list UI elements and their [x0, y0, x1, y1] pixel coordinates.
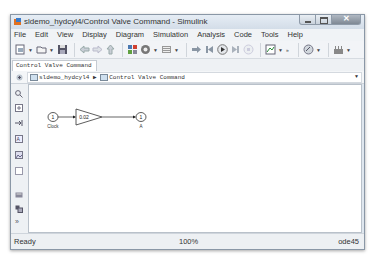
window-controls: ✕	[299, 15, 361, 25]
a-outport-block[interactable]: 1	[136, 113, 146, 122]
model-browser-icon[interactable]	[15, 191, 23, 199]
breadcrumb: sldemo_hydcyl4 ▶ Control Valve Command ▼	[27, 72, 362, 83]
library-browser-icon[interactable]	[127, 44, 138, 55]
model-config-icon[interactable]	[140, 44, 151, 55]
menu-simulation[interactable]: Simulation	[153, 29, 188, 41]
run-icon[interactable]	[217, 44, 228, 55]
menu-code[interactable]: Code	[234, 29, 252, 41]
model-advisor-dropdown[interactable]: ▼	[316, 47, 320, 53]
zoom-level: 100%	[179, 237, 198, 246]
diagram-canvas[interactable]: 1 Clock 0.02 1 A	[28, 84, 362, 233]
model-config-dropdown[interactable]: ▼	[153, 47, 157, 53]
image-icon[interactable]	[15, 151, 23, 159]
svg-text:0.02: 0.02	[79, 114, 89, 120]
maximize-button[interactable]	[316, 15, 332, 25]
clock-inport-block[interactable]: 1	[48, 113, 58, 122]
toolbar-separator	[260, 43, 261, 57]
menu-display[interactable]: Display	[82, 29, 107, 41]
title-bar[interactable]: sldemo_hydcyl4/Control Valve Command - S…	[11, 15, 364, 29]
tool-palette: A »	[11, 84, 28, 233]
breadcrumb-separator-icon: ▶	[93, 74, 97, 81]
menu-bar: File Edit View Display Diagram Simulatio…	[11, 29, 364, 41]
model-advisor-icon[interactable]	[303, 44, 314, 55]
forward-icon[interactable]	[92, 44, 103, 55]
menu-help[interactable]: Help	[288, 29, 303, 41]
breadcrumb-row: sldemo_hydcyl4 ▶ Control Valve Command ▼	[11, 71, 364, 84]
svg-text:1: 1	[140, 114, 143, 120]
tab-bar: Control Valve Command	[11, 59, 364, 71]
new-model-icon[interactable]	[15, 44, 26, 55]
gain-block[interactable]: 0.02	[76, 109, 102, 125]
clock-label: Clock	[47, 124, 59, 129]
toolbar-separator	[74, 43, 75, 57]
breadcrumb-dropdown-icon[interactable]: ▼	[355, 73, 358, 82]
breadcrumb-current[interactable]: Control Valve Command	[109, 74, 185, 81]
svg-text:1: 1	[52, 114, 55, 120]
menu-view[interactable]: View	[57, 29, 73, 41]
toolbar: ▼ ▼ ▼ ▼ ▼ » ▼ ▼	[11, 41, 364, 59]
arrowhead-icon	[73, 116, 76, 119]
breadcrumb-root[interactable]: sldemo_hydcyl4	[39, 74, 89, 81]
area-icon[interactable]	[15, 167, 23, 175]
fit-view-icon[interactable]	[15, 104, 23, 112]
back-icon[interactable]	[79, 44, 90, 55]
a-label: A	[139, 124, 142, 129]
open-icon[interactable]	[36, 44, 47, 55]
scope-icon[interactable]	[265, 44, 276, 55]
toolbar-separator	[298, 43, 299, 57]
block-properties-icon[interactable]	[15, 205, 23, 213]
model-explorer-icon[interactable]	[161, 44, 172, 55]
menu-file[interactable]: File	[14, 29, 26, 41]
toolbar-separator	[122, 43, 123, 57]
status-text: Ready	[14, 237, 36, 246]
menu-tools[interactable]: Tools	[261, 29, 279, 41]
step-back-icon[interactable]	[204, 44, 215, 55]
arrowhead-icon	[133, 116, 136, 119]
scope-dropdown[interactable]: ▼	[278, 47, 282, 53]
tab-control-valve-command[interactable]: Control Valve Command	[12, 60, 97, 71]
step-forward-icon[interactable]	[230, 44, 241, 55]
save-icon[interactable]	[57, 44, 68, 55]
signal-arrow-icon[interactable]	[15, 119, 23, 127]
build-dropdown[interactable]: ▼	[346, 47, 350, 53]
model-explorer-dropdown[interactable]: ▼	[174, 47, 178, 53]
menu-analysis[interactable]: Analysis	[197, 29, 225, 41]
open-dropdown[interactable]: ▼	[49, 47, 53, 53]
toolbar-separator	[186, 43, 187, 57]
zoom-icon[interactable]	[15, 90, 23, 98]
new-model-dropdown[interactable]: ▼	[28, 47, 32, 53]
minimize-button[interactable]	[299, 15, 316, 25]
up-icon[interactable]	[105, 44, 116, 55]
status-bar: Ready 100% ode45	[11, 233, 364, 249]
menu-edit[interactable]: Edit	[35, 29, 48, 41]
window-title: sldemo_hydcyl4/Control Valve Command - S…	[24, 16, 207, 28]
solver-indicator[interactable]: ode45	[338, 237, 359, 246]
annotation-icon[interactable]: A	[15, 135, 23, 143]
stop-icon[interactable]	[243, 44, 254, 55]
build-icon[interactable]	[333, 44, 344, 55]
more-toolbar-icon[interactable]: »	[286, 47, 290, 53]
simulink-app-icon	[14, 18, 22, 26]
toolbar-separator	[328, 43, 329, 57]
simulink-window: sldemo_hydcyl4/Control Valve Command - S…	[10, 14, 365, 250]
menu-diagram[interactable]: Diagram	[116, 29, 144, 41]
more-palette-icon[interactable]: »	[15, 218, 23, 226]
hide-browser-icon[interactable]	[16, 74, 23, 81]
close-button[interactable]: ✕	[332, 15, 361, 25]
subsystem-icon	[100, 74, 108, 81]
model-icon	[30, 74, 38, 81]
block-diagram: 1 Clock 0.02 1 A	[29, 85, 363, 234]
close-icon: ✕	[332, 14, 360, 23]
debug-icon[interactable]	[191, 44, 202, 55]
